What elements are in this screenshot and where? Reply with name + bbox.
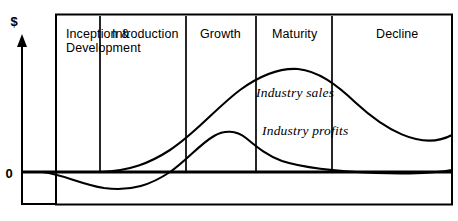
industry-sales-label: Industry sales: [255, 85, 334, 100]
industry-profits-label: Industry profits: [261, 123, 348, 138]
phase-label-maturity: Maturity: [272, 27, 318, 41]
phase-label-decline: Decline: [376, 27, 418, 41]
phase-label-growth: Growth: [200, 27, 241, 41]
axis-zero-label: 0: [5, 166, 12, 181]
industry-life-cycle-figure: $ 0 Inception & Development Introduction…: [0, 0, 458, 221]
phase-label-inception-line2: Development: [66, 41, 141, 55]
axis-dollar-label: $: [10, 14, 18, 29]
phase-label-introduction: Introduction: [112, 27, 179, 41]
up-arrow-icon: [17, 34, 27, 47]
chart-canvas: $ 0 Inception & Development Introduction…: [0, 0, 458, 221]
